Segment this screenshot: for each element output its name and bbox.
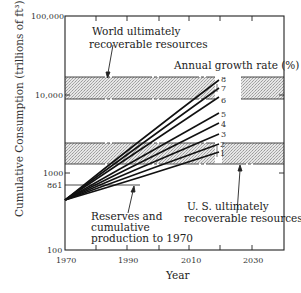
rate-label-5: 5 <box>221 110 226 119</box>
ytick-100000: 100,000 <box>31 12 64 21</box>
y-axis-title: Cumulative Consumption (trillions of ft³… <box>13 67 25 217</box>
xtick-1970: 1970 <box>56 256 76 265</box>
rate-label-4: 4 <box>221 120 226 129</box>
rate-label-2: 2 <box>220 140 225 149</box>
ytick-1000: 1000 <box>43 169 63 178</box>
rate-label-3: 3 <box>221 130 226 139</box>
xtick-2010: 2010 <box>181 256 201 265</box>
growth-rate-title: Annual growth rate (%) <box>174 60 299 71</box>
rate-label-6: 6 <box>221 96 226 105</box>
xtick-2030: 2030 <box>243 256 263 265</box>
ytick-10000: 10,000 <box>35 91 63 100</box>
world-resources-label-2: recoverable resources <box>89 39 208 50</box>
us-resources-label-2: recoverable resources <box>184 213 301 224</box>
world-resources-label-1: World ultimately <box>92 26 180 37</box>
rate-label-8: 8 <box>221 75 226 84</box>
xtick-1990: 1990 <box>118 256 138 265</box>
ytick-100: 100 <box>47 246 62 255</box>
ytick-861: 861 <box>47 181 62 190</box>
us-resources-label-1: U. S. ultimately <box>187 201 269 212</box>
reserves-label-3: production to 1970 <box>91 233 193 244</box>
rate-label-1: 1 <box>220 149 225 158</box>
rate-label-7: 7 <box>221 84 226 93</box>
world-resources-band <box>65 77 284 99</box>
x-axis-title: Year <box>166 270 190 281</box>
